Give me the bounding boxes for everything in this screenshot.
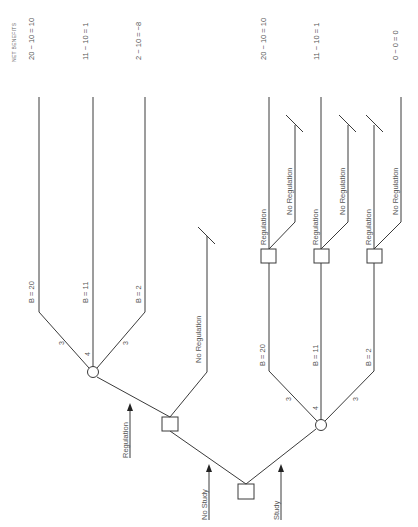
- study-b2-regulation-label: Regulation: [364, 209, 373, 245]
- outcome-2: 11 − 10 = 1: [81, 23, 90, 60]
- outcome-1: 20 − 10 = 10: [27, 18, 36, 60]
- study-chance-branch-b20: [269, 263, 317, 421]
- net-benefits-label: NET BENEFITS: [11, 22, 17, 62]
- study-decision-node-b11: [314, 249, 329, 263]
- prob-label-b11: 4: [84, 352, 91, 356]
- outcome-3: 2 − 10 = −8: [134, 22, 143, 60]
- study-b20-no-regulation-label: No Regulation: [285, 167, 294, 215]
- no-study-chance-node: [88, 367, 99, 378]
- outcome-6: 0 − 0 = 0: [391, 30, 400, 60]
- study-benefit-label-b20: B = 20: [258, 344, 267, 366]
- no-study-label: No Study: [200, 489, 209, 520]
- study-b20-regulation-label: Regulation: [259, 209, 268, 245]
- study-label: Study: [272, 501, 281, 520]
- study-prob-label-b11: 4: [312, 406, 319, 410]
- prob-label-b20: 3: [58, 341, 65, 345]
- study-decision-node-b20: [261, 249, 276, 263]
- chance-branch-b20: [39, 97, 89, 368]
- regulation-arrow-label: Regulation: [121, 422, 130, 458]
- no-study-branch-line: [170, 431, 246, 484]
- chance-branch-b2: [97, 97, 145, 368]
- benefit-label-b11: B = 11: [81, 282, 90, 303]
- study-prob-label-b20: 3: [285, 397, 292, 401]
- study-benefit-label-b11: B = 11: [311, 345, 320, 366]
- benefit-label-b20: B = 20: [27, 281, 36, 303]
- study-b11-regulation-label: Regulation: [311, 209, 320, 245]
- regulation-branch-line: [97, 377, 170, 417]
- study-b2-no-regulation-label: No Regulation: [391, 167, 400, 215]
- study-benefit-label-b2: B = 2: [364, 348, 373, 366]
- root-decision-node: [238, 484, 254, 499]
- study-chance-node: [316, 420, 327, 431]
- outcome-4: 20 − 10 = 10: [259, 18, 268, 60]
- no-study-decision-node: [162, 417, 178, 431]
- study-decision-node-b2: [367, 249, 382, 263]
- study-prob-label-b2: 3: [352, 397, 359, 401]
- study-b11-no-regulation-label: No Regulation: [338, 167, 347, 215]
- no-regulation-label: No Regulation: [194, 315, 203, 363]
- prob-label-b2: 3: [122, 341, 129, 345]
- study-chance-branch-b2: [325, 263, 374, 421]
- outcome-5: 11 − 10 = 1: [312, 23, 321, 60]
- decision-tree-diagram: NET BENEFITS 20 − 10 = 10 11 − 10 = 1 2 …: [0, 0, 418, 527]
- benefit-label-b2: B = 2: [134, 285, 143, 303]
